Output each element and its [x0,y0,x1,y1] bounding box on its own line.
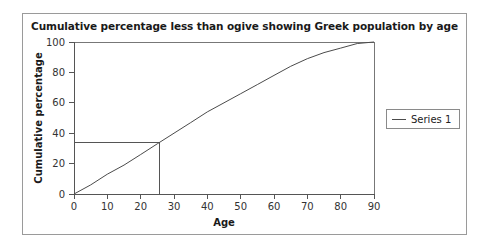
svg-text:20: 20 [52,158,65,169]
y-axis-ticks [69,42,74,194]
chart-legend[interactable]: Series 1 [386,109,460,129]
series-line-series-1 [74,42,374,194]
y-axis-tick-labels: 0 20 40 60 80 100 [46,37,65,200]
y-axis-title: Cumulative percentage [33,52,44,184]
svg-text:40: 40 [201,201,214,212]
svg-text:10: 10 [101,201,114,212]
svg-text:40: 40 [52,128,65,139]
svg-text:30: 30 [168,201,181,212]
svg-text:0: 0 [71,201,77,212]
svg-text:50: 50 [234,201,247,212]
svg-text:0: 0 [59,189,65,200]
plot-border [74,42,374,194]
x-axis-tick-labels: 0 10 20 30 40 50 60 70 80 90 [71,201,381,212]
legend-line-swatch [392,119,406,120]
median-guide-lines [74,142,159,194]
legend-label-series-1: Series 1 [411,114,451,125]
svg-text:80: 80 [334,201,347,212]
svg-text:90: 90 [368,201,381,212]
x-axis-title: Age [213,217,235,228]
svg-text:100: 100 [46,37,65,48]
svg-text:60: 60 [268,201,281,212]
svg-text:60: 60 [52,97,65,108]
svg-text:20: 20 [134,201,147,212]
x-axis-ticks [74,194,374,199]
svg-text:80: 80 [52,67,65,78]
chart-frame: Cumulative percentage less than ogive sh… [22,13,467,235]
svg-text:70: 70 [301,201,314,212]
